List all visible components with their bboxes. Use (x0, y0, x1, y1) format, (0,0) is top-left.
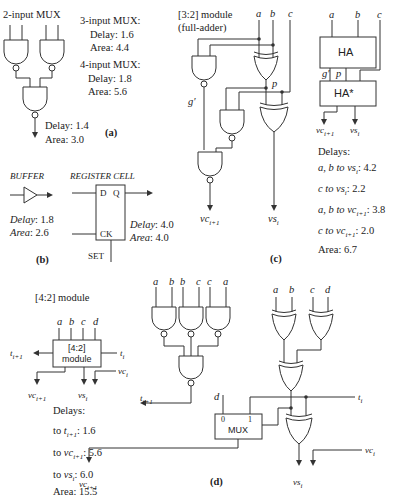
ha-block-label: HA (338, 46, 353, 58)
fa-delays-title: Delays: (318, 146, 350, 158)
compressor-in-b: b (69, 316, 74, 328)
buffer-area: Area: 2.6 (10, 227, 49, 239)
fa-delay-c-vs: c to vsi: 2.2 (318, 183, 365, 199)
mux-in1: 1 (248, 414, 252, 426)
register-delay: Delay: 4.0 (130, 219, 174, 231)
buffer-title: BUFFER (10, 170, 44, 182)
compressor-delay-vc: to vci+1: 5.6 (53, 447, 102, 463)
register-area: Area: 4.0 (130, 232, 169, 244)
nand-in-a1: a (153, 276, 158, 288)
compressor-box-line2: module (62, 353, 92, 365)
nand-in-c2: c (207, 276, 212, 288)
mux4-delay: Delay: 1.8 (88, 73, 132, 85)
compressor-in-d: d (93, 316, 98, 328)
mux3-area: Area: 4.4 (90, 42, 129, 54)
mux3-title: 3-input MUX: (80, 15, 140, 27)
compressor-vs-out: vsi (78, 389, 87, 405)
ha-vc-out: vci+1 (316, 124, 334, 140)
xor-in-a: a (273, 284, 278, 296)
nand-in-a2: a (223, 276, 228, 288)
compressor-t-out: ti+1 (10, 347, 23, 363)
fa-delay-ab-vs: a, b to vsi: 4.2 (318, 162, 377, 178)
buffer-symbol (10, 187, 50, 203)
full-adder-gates (192, 20, 290, 208)
register-d-pin: D (100, 187, 107, 199)
xor-in-b: b (289, 284, 294, 296)
register-ck-pin: CK (100, 228, 113, 240)
ha-g-label: g′ (322, 68, 330, 80)
fa-title-line2: (full-adder) (178, 22, 226, 34)
compressor-t-in: ti (120, 347, 124, 363)
ha-vs-out: vsi (350, 124, 359, 140)
circuit-t-in: ti (358, 391, 362, 407)
compressor-delays-title: Delays: (53, 405, 85, 417)
register-title: REGISTER CELL (70, 170, 135, 182)
mux4-area: Area: 5.6 (88, 86, 127, 98)
mux4-title: 4-input MUX: (80, 59, 140, 71)
circuit-vc-out: vci+1 (79, 478, 97, 494)
compressor-title: [4:2] module (35, 292, 90, 304)
ha-input-b: b (355, 9, 360, 21)
sum-xor-network (89, 297, 362, 463)
compressor-vc-out: vci+1 (28, 389, 46, 405)
ha-input-a: a (329, 9, 334, 21)
mux2-gates (4, 25, 64, 135)
mux-in0: 0 (221, 414, 225, 426)
panel-c-label: (c) (270, 253, 282, 265)
circuit-t-out: ti+1 (140, 392, 153, 408)
mux2-area: Area: 3.0 (45, 134, 84, 146)
panel-a-label: (a) (105, 127, 117, 139)
compressor-in-c: c (81, 316, 86, 328)
mux-d-input: d (214, 391, 219, 403)
fa-area: Area: 6.7 (318, 244, 357, 256)
fa-input-b: b (270, 8, 275, 20)
mux2-title: 2-input MUX (3, 9, 60, 21)
fa-delay-c-vc: c to vci+1: 2.0 (318, 225, 374, 241)
fa-title-line1: [3:2] module (178, 9, 233, 21)
xor-in-c: c (310, 284, 315, 296)
carry-nand-network (143, 287, 230, 403)
compressor-in-a: a (57, 316, 62, 328)
xor-in-d: d (325, 284, 330, 296)
fa-p-label: p (272, 78, 277, 90)
mux-label: MUX (228, 424, 248, 436)
ha-p-label: p (336, 68, 341, 80)
panel-b-label: (b) (36, 254, 49, 266)
fa-g-prime-label: g′ (188, 96, 196, 108)
ha-input-c: c (377, 9, 382, 21)
compressor-delay-t: to ti+1: 1.6 (53, 425, 96, 441)
nand-in-b2: b (180, 276, 185, 288)
fa-vc-out: vci+1 (200, 213, 220, 229)
register-set-pin: SET (88, 250, 104, 262)
register-q-pin: Q (113, 187, 120, 199)
panel-d-label: (d) (210, 476, 223, 488)
compressor-vc-in: vci (118, 365, 128, 381)
mux2-delay: Delay: 1.4 (45, 120, 89, 132)
buffer-delay: Delay: 1.8 (10, 214, 54, 226)
mux3-delay: Delay: 1.6 (90, 29, 134, 41)
fa-input-c: c (288, 8, 293, 20)
fa-input-a: a (256, 8, 261, 20)
circuit-vs-out: vsi (293, 476, 302, 492)
fa-vs-out: vsi (268, 213, 279, 229)
nand-in-c1: c (196, 276, 201, 288)
nand-in-b1: b (169, 276, 174, 288)
ha-star-block-label: HA* (334, 87, 354, 99)
fa-delay-ab-vc: a, b to vci+1: 3.8 (318, 204, 385, 220)
circuit-vc-in: vci (365, 444, 375, 460)
